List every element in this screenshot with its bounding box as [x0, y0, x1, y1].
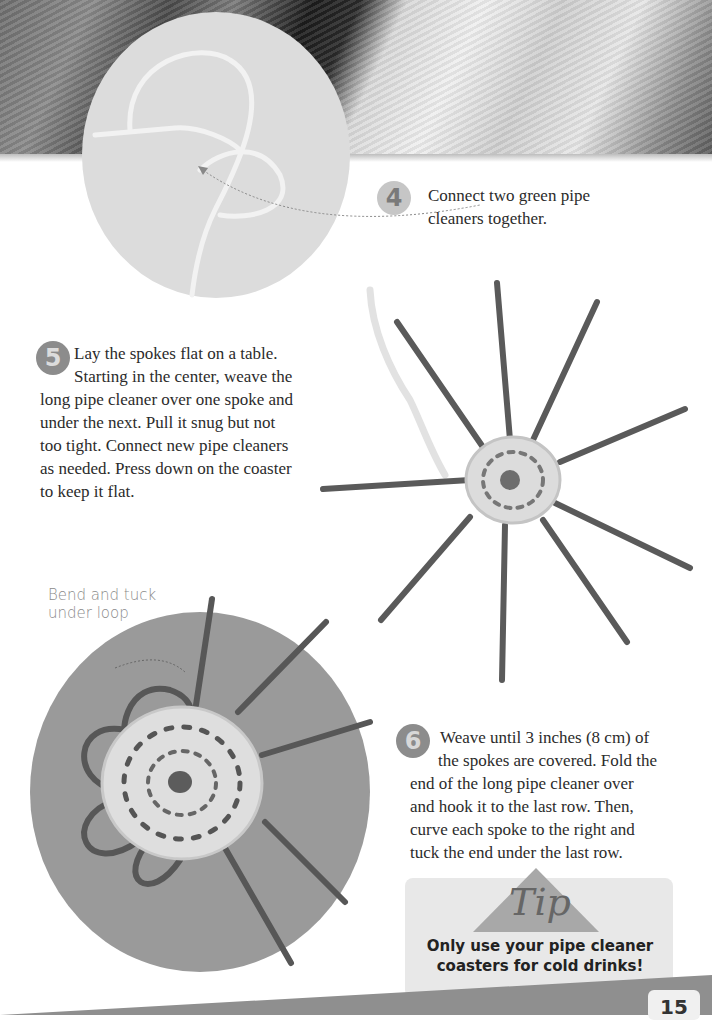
step-4-number-badge: 4 [377, 181, 411, 215]
step-5-line: to keep it flat. [40, 480, 310, 503]
step-5-line: long pipe cleaner over one spoke and [40, 388, 310, 411]
step5-coaster-illustration [323, 283, 690, 680]
step-5-line: Starting in the center, weave the [40, 365, 310, 388]
step-6-line: Weave until 3 inches (8 cm) of [432, 726, 692, 749]
tip-label: Tip [505, 880, 575, 924]
step-6-line: the spokes are covered. Fold the [432, 749, 692, 772]
step6-dotted-arrow [115, 660, 185, 672]
step-5-line: under the next. Pull it snug but not [40, 411, 310, 434]
step-6-number-badge: 6 [396, 724, 430, 758]
tip-line: Only use your pipe cleaner [415, 936, 665, 956]
step-5-line: Lay the spokes flat on a table. [40, 342, 310, 365]
step-6-line: and hook it to the last row. Then, [410, 795, 692, 818]
step6-coaster-illustration [84, 599, 370, 963]
tip-text: Only use your pipe cleaner coasters for … [415, 936, 665, 976]
step-6-line: end of the long pipe cleaner over [410, 772, 692, 795]
page-number: 15 [648, 990, 700, 1020]
step-6-caption: Bend and tuck under loop [48, 586, 156, 622]
step-4-line: cleaners together. [428, 207, 648, 230]
step-4-instructions: Connect two green pipe cleaners together… [428, 184, 648, 230]
step-5-line: too tight. Connect new pipe cleaners [40, 434, 310, 457]
step4-pipe-cleaner-illustration [95, 53, 283, 295]
caption-line: under loop [48, 604, 156, 622]
step-6-line: curve each spoke to the right and [410, 818, 692, 841]
step-5-line: as needed. Press down on the coaster [40, 457, 310, 480]
step-4-line: Connect two green pipe [428, 184, 648, 207]
step-6-instructions: Weave until 3 inches (8 cm) of the spoke… [432, 726, 692, 864]
step-5-instructions: Lay the spokes flat on a table. Starting… [40, 342, 310, 503]
step-6-line: tuck the end under the last row. [410, 841, 692, 864]
tip-line: coasters for cold drinks! [415, 956, 665, 976]
caption-line: Bend and tuck [48, 586, 156, 604]
